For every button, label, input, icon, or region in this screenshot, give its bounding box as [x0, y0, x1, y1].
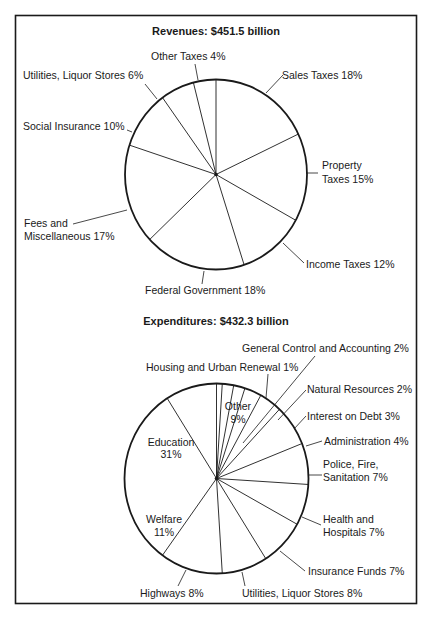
label-sales-taxes: Sales Taxes 18%	[282, 69, 362, 81]
label-social-insurance: Social Insurance 10%	[23, 120, 125, 132]
label-general-control: General Control and Accounting 2%	[242, 342, 409, 354]
label-highways: Highways 8%	[140, 587, 204, 599]
label-education-2: 31%	[160, 448, 181, 460]
label-property-2: Taxes 15%	[322, 173, 373, 185]
label-fees-2: Miscellaneous 17%	[24, 230, 114, 242]
label-welfare-1: Welfare	[146, 513, 182, 525]
label-fees-1: Fees and	[24, 217, 68, 229]
pie-center-dot	[215, 477, 219, 481]
label-police-1: Police, Fire,	[323, 458, 378, 470]
label-utilities-expenditure: Utilities, Liquor Stores 8%	[242, 587, 362, 599]
expenditures-title: Expenditures: $432.3 billion	[143, 315, 289, 327]
label-health-2: Hospitals 7%	[323, 526, 384, 538]
label-administration: Administration 4%	[324, 435, 409, 447]
label-housing: Housing and Urban Renewal 1%	[146, 361, 298, 373]
label-insurance-funds: Insurance Funds 7%	[308, 565, 404, 577]
label-other-taxes: Other Taxes 4%	[151, 50, 226, 62]
label-other-2: 9%	[230, 413, 245, 425]
label-natural-resources: Natural Resources 2%	[307, 383, 412, 395]
label-police-2: Sanitation 7%	[323, 471, 388, 483]
label-health-1: Health and	[323, 513, 374, 525]
label-utilities-revenue: Utilities, Liquor Stores 6%	[23, 69, 143, 81]
charts-svg: Revenues: $451.5 billion Sales Taxes 18%…	[0, 0, 430, 617]
label-interest-on-debt: Interest on Debt 3%	[307, 410, 400, 422]
label-education-1: Education	[148, 436, 195, 448]
figure-container: Revenues: $451.5 billion Sales Taxes 18%…	[0, 0, 430, 617]
label-property-1: Property	[322, 159, 362, 171]
pie-center-dot	[214, 173, 218, 177]
label-income-taxes: Income Taxes 12%	[306, 258, 395, 270]
label-federal-government: Federal Government 18%	[145, 284, 265, 296]
label-other-1: Other	[225, 400, 252, 412]
label-welfare-2: 11%	[154, 526, 174, 538]
revenues-title: Revenues: $451.5 billion	[152, 25, 280, 37]
